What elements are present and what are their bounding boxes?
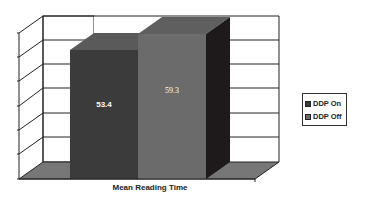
legend-swatch-dark [305,101,311,107]
legend-label: DDP On [313,99,341,108]
legend-item-ddp-on: DDP On [305,97,344,110]
bar-value-ddp-off: 59.3 [138,86,206,95]
bar-value-ddp-on: 53.4 [70,100,138,109]
side-wall [17,16,43,179]
legend-label: DDP Off [313,112,342,121]
legend-swatch-gray [305,114,311,120]
legend: DDP On DDP Off [302,93,347,126]
x-axis-label: Mean Reading Time [70,183,230,192]
bar-ddp-off [138,17,230,179]
legend-item-ddp-off: DDP Off [305,110,344,123]
